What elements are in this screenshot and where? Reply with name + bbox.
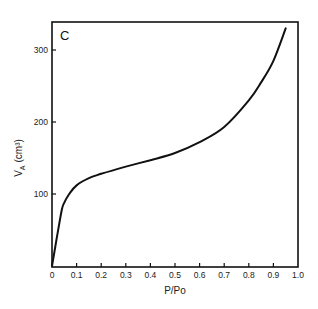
y-axis-title-unit: (cm³) <box>13 139 24 162</box>
x-tick-label: 0.8 <box>243 270 255 280</box>
x-axis-title: P/Po <box>164 285 186 296</box>
x-tick-label: 0.1 <box>71 270 83 280</box>
plot-frame <box>52 22 298 267</box>
x-tick-label: 0.5 <box>169 270 181 280</box>
y-tick-label: 100 <box>34 189 48 199</box>
panel-label: C <box>60 28 69 43</box>
x-axis-ticks: 00.10.20.30.40.50.60.70.80.91.0 <box>50 263 305 280</box>
y-tick-label: 300 <box>34 45 48 55</box>
x-tick-label: 0.9 <box>267 270 279 280</box>
x-tick-label: 0.6 <box>194 270 206 280</box>
x-tick-label: 0.4 <box>144 270 156 280</box>
x-tick-label: 0.7 <box>218 270 230 280</box>
isotherm-chart: 00.10.20.30.40.50.60.70.80.91.0 10020030… <box>0 0 318 309</box>
isotherm-curve <box>52 28 286 266</box>
x-tick-label: 0.3 <box>120 270 132 280</box>
svg-text:VA(cm³): VA(cm³) <box>13 139 26 177</box>
x-tick-label: 1.0 <box>292 270 304 280</box>
x-tick-label: 0 <box>50 270 55 280</box>
y-axis-title: VA(cm³) <box>13 139 26 177</box>
y-tick-label: 200 <box>34 117 48 127</box>
y-axis-title-sub: A <box>19 165 26 170</box>
x-tick-label: 0.2 <box>95 270 107 280</box>
